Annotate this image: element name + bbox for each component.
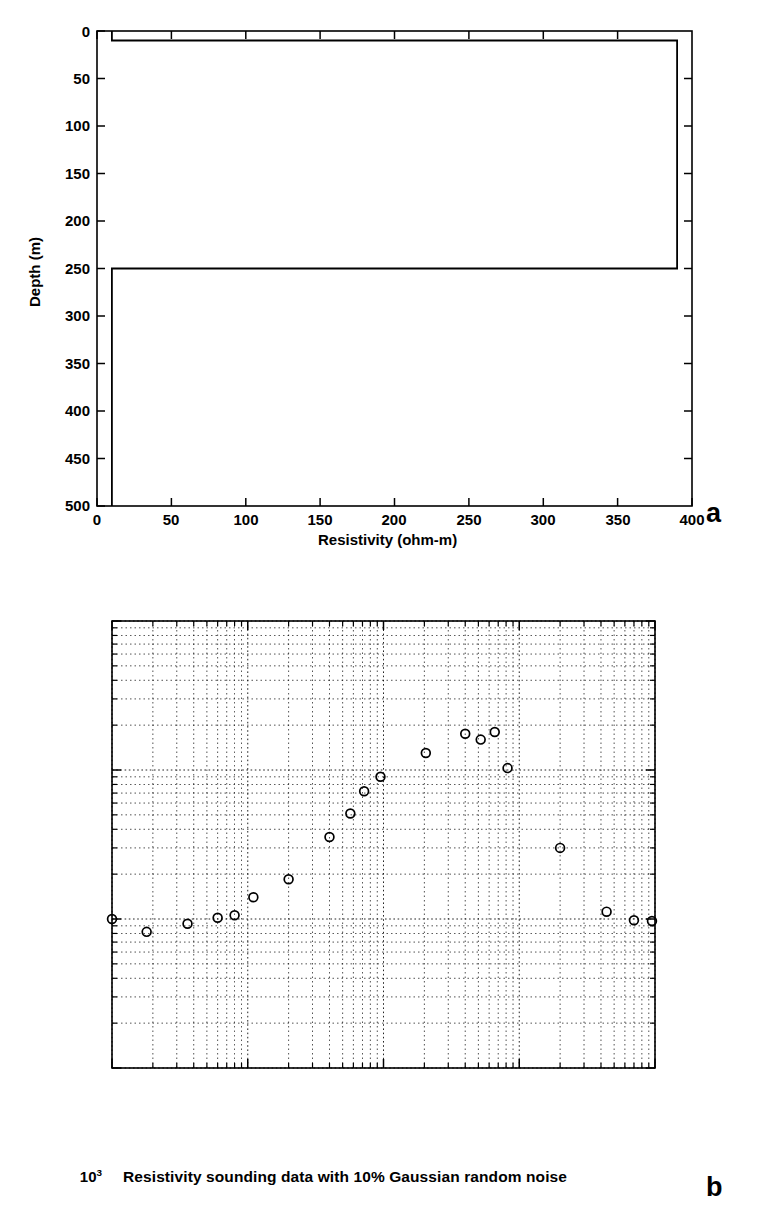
panel-a-ytick-300: 300 [42, 308, 90, 323]
panel-a-ytick-400: 400 [42, 403, 90, 418]
panel-a-ytick-50: 50 [42, 71, 90, 86]
panel-a-xtick-250: 250 [449, 512, 489, 527]
panel-a-xtick-150: 150 [300, 512, 340, 527]
panel-a-xtick-350: 350 [598, 512, 638, 527]
panel-a-ytick-450: 450 [42, 451, 90, 466]
panel-a-ytick-150: 150 [42, 166, 90, 181]
panel-a-ytick-350: 350 [42, 356, 90, 371]
panel-b-data-points [108, 728, 657, 937]
panel-a-ytick-250: 250 [42, 261, 90, 276]
panel-a-xtick-0: 0 [77, 512, 117, 527]
panel-a-xtick-300: 300 [523, 512, 563, 527]
panel-a-xtick-100: 100 [226, 512, 266, 527]
panel-a-y-axis-title: Depth (m) [26, 237, 43, 307]
panel-a-ytick-0: 0 [42, 24, 90, 39]
panel-a-ytick-500: 500 [42, 498, 90, 513]
figure-caption: Resistivity sounding data with 10% Gauss… [0, 1168, 690, 1186]
panel-a-ytick-200: 200 [42, 213, 90, 228]
panel-a-x-axis-title: Resistivity (ohm-m) [318, 531, 457, 548]
resistivity-model-curve [112, 31, 677, 506]
panel-b-grid [112, 621, 655, 1068]
panel-a-ytick-100: 100 [42, 118, 90, 133]
panel-a-xtick-50: 50 [151, 512, 191, 527]
panel-a-xtick-200: 200 [374, 512, 414, 527]
figure-root: 0 50 100 150 200 250 300 350 400 0 50 10… [0, 0, 762, 1216]
panel-a-label: a [706, 500, 721, 527]
panel-b-plot-svg [0, 560, 762, 1216]
panel-b-label: b [706, 1174, 723, 1201]
panel-b-sounding-data: 103 102 101 100 100 101 102 103 104 AB/2… [0, 560, 762, 1216]
panel-a-plot-svg [0, 0, 762, 560]
panel-a-resistivity-depth-model: 0 50 100 150 200 250 300 350 400 0 50 10… [0, 0, 762, 560]
